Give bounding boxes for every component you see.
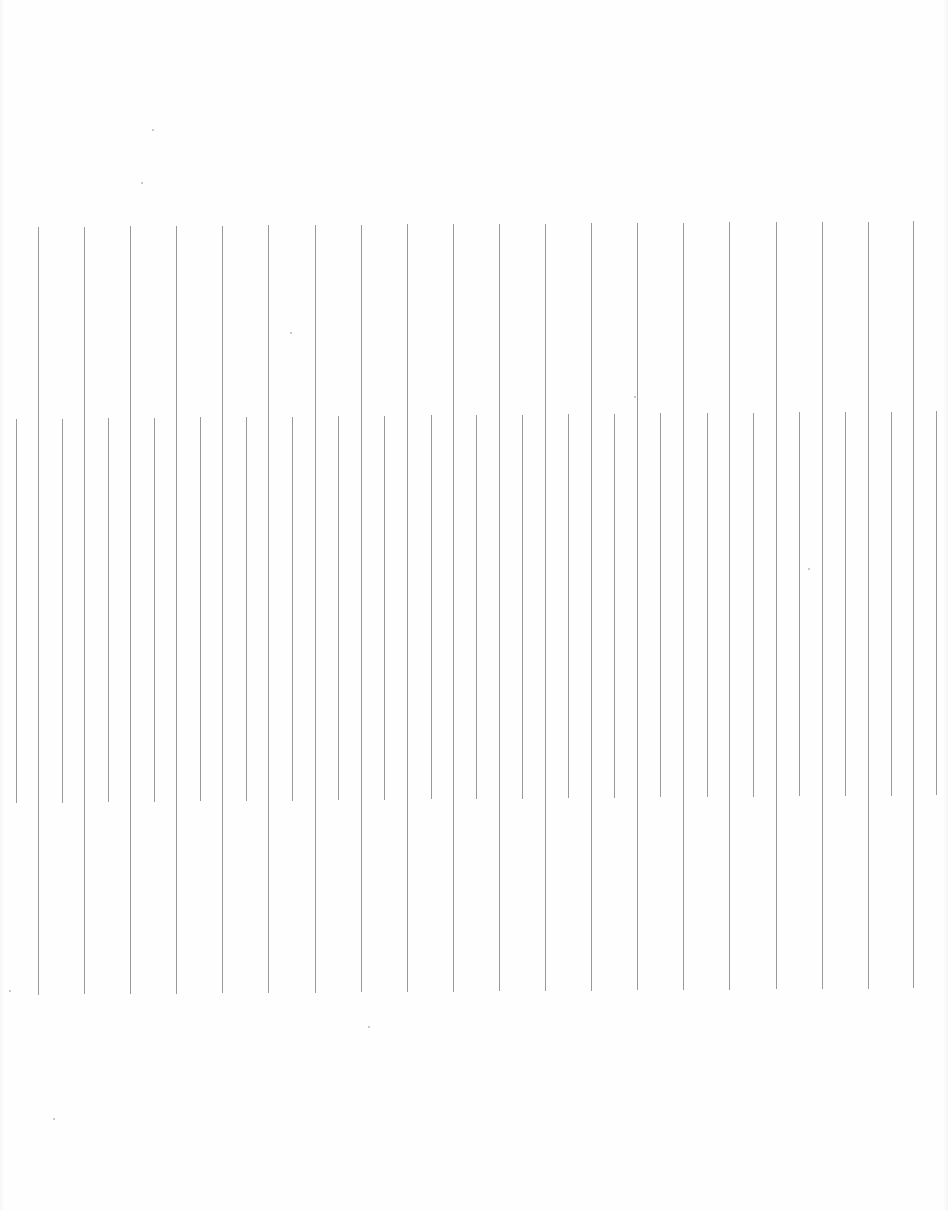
short-vertical-line (936, 411, 937, 795)
long-vertical-line (776, 222, 777, 989)
scan-speck (53, 1118, 55, 1120)
long-vertical-line (130, 226, 131, 994)
scanned-page (0, 0, 948, 1210)
long-vertical-line (499, 224, 500, 992)
short-vertical-line (522, 415, 523, 799)
long-vertical-line (453, 224, 454, 992)
long-vertical-line (822, 222, 823, 989)
short-vertical-line (108, 418, 109, 802)
short-vertical-line (384, 416, 385, 800)
short-vertical-line (338, 416, 339, 800)
long-vertical-line (637, 223, 638, 990)
short-vertical-line (292, 417, 293, 801)
long-vertical-line (268, 225, 269, 993)
short-vertical-line (891, 412, 892, 796)
short-vertical-line (799, 412, 800, 796)
long-vertical-line (591, 223, 592, 990)
scan-speck (152, 129, 154, 131)
long-vertical-line (315, 225, 316, 993)
short-vertical-line (16, 419, 17, 803)
short-vertical-line (431, 415, 432, 799)
long-vertical-line (913, 221, 914, 988)
long-vertical-line (729, 222, 730, 989)
scan-speck (141, 182, 143, 184)
short-vertical-line (707, 413, 708, 797)
scan-speck (634, 396, 636, 398)
short-vertical-line (200, 417, 201, 801)
short-vertical-line (660, 413, 661, 797)
short-vertical-line (62, 419, 63, 803)
scan-speck (368, 1026, 370, 1028)
scan-speck (290, 332, 292, 334)
long-vertical-line (683, 223, 684, 990)
short-vertical-line (154, 418, 155, 802)
long-vertical-line (361, 225, 362, 993)
scan-speck (9, 990, 11, 992)
short-vertical-line (753, 413, 754, 797)
short-vertical-line (614, 414, 615, 798)
long-vertical-line (176, 226, 177, 994)
long-vertical-line (222, 226, 223, 994)
short-vertical-line (476, 415, 477, 799)
short-vertical-line (568, 414, 569, 798)
long-vertical-line (84, 227, 85, 995)
long-vertical-line (407, 224, 408, 992)
short-vertical-line (845, 412, 846, 796)
short-vertical-line (246, 417, 247, 801)
scan-speck (808, 568, 810, 570)
long-vertical-line (545, 224, 546, 991)
ruled-lines-layer (0, 0, 948, 1210)
long-vertical-line (868, 222, 869, 989)
long-vertical-line (38, 227, 39, 995)
